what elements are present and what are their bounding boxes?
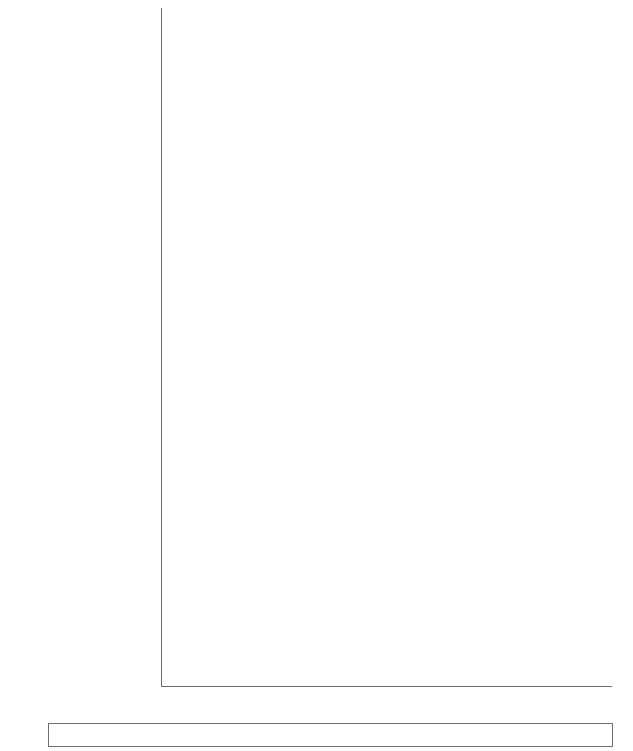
x-axis-line xyxy=(161,686,612,687)
plot-area xyxy=(0,8,633,686)
chart-legend xyxy=(48,723,613,747)
stacked-bar-chart xyxy=(0,0,633,751)
value-axis-line xyxy=(161,8,162,686)
